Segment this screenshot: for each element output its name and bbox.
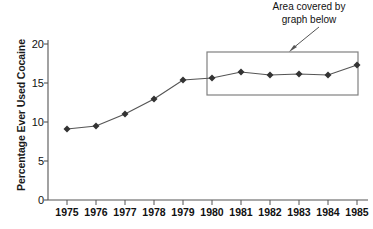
data-point-1977 — [122, 111, 129, 118]
data-point-1982 — [267, 72, 274, 79]
data-point-1984 — [325, 72, 332, 79]
data-point-1975 — [64, 126, 71, 133]
data-point-1980 — [209, 75, 216, 82]
data-point-1979 — [180, 77, 187, 84]
data-point-1983 — [296, 71, 303, 78]
data-series-cocaine — [64, 62, 361, 133]
chart-figure: Percentage Ever Used Cocaine 20 15 10 5 … — [0, 0, 373, 229]
chart-svg — [0, 0, 373, 229]
data-point-1976 — [93, 123, 100, 130]
data-point-1978 — [151, 96, 158, 103]
highlight-box — [207, 52, 358, 95]
data-point-1981 — [238, 69, 245, 76]
callout-arrow — [289, 27, 319, 52]
series-markers — [64, 62, 361, 133]
data-point-1985 — [354, 62, 361, 69]
axes — [44, 40, 368, 205]
